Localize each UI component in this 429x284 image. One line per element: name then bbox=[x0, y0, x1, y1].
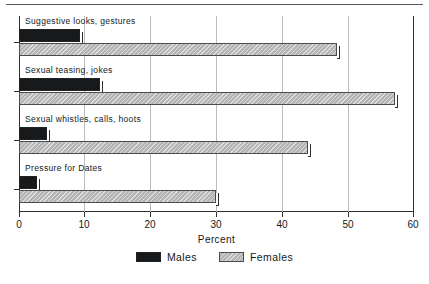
bar-females bbox=[19, 92, 395, 105]
gridline-50 bbox=[348, 16, 349, 212]
legend-item-males: Males bbox=[136, 251, 197, 263]
bar-face bbox=[19, 92, 395, 105]
bar-face bbox=[19, 176, 37, 189]
bar-females bbox=[19, 43, 337, 56]
category-label: Sexual whistles, calls, hoots bbox=[25, 114, 141, 124]
x-axis-tick-label: 20 bbox=[135, 219, 165, 230]
x-axis-tick-label: 30 bbox=[201, 219, 231, 230]
x-axis-tick bbox=[84, 212, 85, 217]
bar-3d-edge bbox=[337, 46, 340, 59]
x-axis-tick-label: 0 bbox=[4, 219, 34, 230]
x-axis-tick bbox=[282, 212, 283, 217]
bar-3d-edge bbox=[216, 193, 219, 206]
bar-males bbox=[19, 176, 37, 189]
bar-face bbox=[19, 78, 100, 91]
category-label: Suggestive looks, gestures bbox=[25, 16, 136, 26]
bar-males bbox=[19, 29, 80, 42]
bar-face bbox=[19, 43, 337, 56]
legend-swatch-males bbox=[136, 252, 161, 262]
x-axis-tick-label: 10 bbox=[69, 219, 99, 230]
top-divider-rule bbox=[6, 4, 423, 5]
legend-swatch-females bbox=[219, 252, 244, 262]
legend-label-males: Males bbox=[167, 251, 197, 263]
x-axis-tick-label: 50 bbox=[333, 219, 363, 230]
bar-face bbox=[19, 190, 216, 203]
category-label: Pressure for Dates bbox=[25, 163, 102, 173]
x-axis-tick bbox=[19, 212, 20, 217]
bar-face bbox=[19, 141, 308, 154]
category-label: Sexual teasing, jokes bbox=[25, 65, 113, 75]
bar-females bbox=[19, 141, 308, 154]
bar-males bbox=[19, 78, 100, 91]
bar-3d-edge bbox=[395, 95, 398, 108]
bar-face bbox=[19, 127, 47, 140]
bar-males bbox=[19, 127, 47, 140]
x-axis-tick bbox=[413, 212, 414, 217]
bar-females bbox=[19, 190, 216, 203]
legend-label-females: Females bbox=[250, 251, 293, 263]
x-axis-tick-label: 60 bbox=[398, 219, 428, 230]
bar-face bbox=[19, 29, 80, 42]
x-axis-title: Percent bbox=[19, 234, 414, 245]
chart-legend: Males Females bbox=[0, 251, 429, 263]
legend-item-females: Females bbox=[219, 251, 293, 263]
x-axis-tick-label: 40 bbox=[267, 219, 297, 230]
x-axis-tick bbox=[348, 212, 349, 217]
bar-3d-edge bbox=[308, 144, 311, 157]
x-axis-tick bbox=[150, 212, 151, 217]
x-axis-tick bbox=[216, 212, 217, 217]
chart-plot-area: Suggestive looks, gestures Sexual teasin… bbox=[19, 16, 414, 212]
